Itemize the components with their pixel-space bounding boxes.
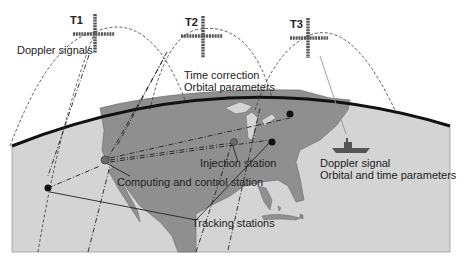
time-correction-label: Time correction [184, 69, 259, 81]
tracking-station-pacific [45, 185, 52, 192]
doppler-signal-label: Doppler signal [320, 157, 390, 169]
computing-control-station-label: Computing and control station [117, 176, 263, 188]
orbital-parameters-label: Orbital parameters [184, 81, 275, 93]
satellite-t2-label: T2 [185, 16, 198, 28]
orbital-time-parameters-label: Orbital and time parameters [320, 169, 456, 181]
injection-station [231, 139, 238, 146]
injection-station-label: Injection station [200, 157, 276, 169]
satellite-t3-label: T3 [290, 18, 303, 30]
satellite-t1-label: T1 [70, 14, 83, 26]
transit-navigation-diagram: T1 T2 T3 Doppler signals Time correction… [0, 0, 466, 259]
doppler-signals-label: Doppler signals [17, 44, 93, 56]
tracking-stations-label: Tracking stations [192, 217, 275, 229]
computing-control-station [101, 156, 109, 164]
tracking-station-northeast [287, 111, 294, 118]
tracking-station-east [269, 139, 276, 146]
